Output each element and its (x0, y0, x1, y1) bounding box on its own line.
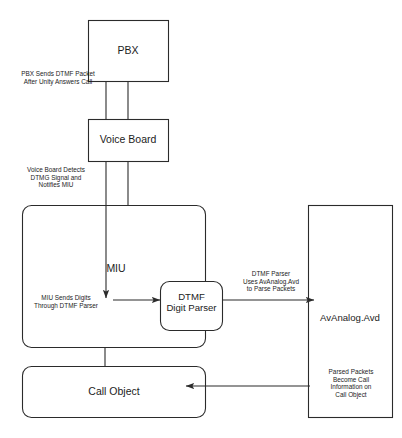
node-avanalog-shape[interactable] (309, 206, 393, 418)
node-voice-board-shape[interactable] (89, 120, 169, 162)
node-dtmf-parser-shape[interactable] (161, 282, 223, 331)
diagram-canvas: PBX Voice Board MIU DTMF Digit Parser Ca… (0, 0, 402, 438)
diagram-vector-layer (0, 0, 402, 438)
node-call-object-shape[interactable] (23, 367, 206, 418)
node-pbx-shape[interactable] (89, 21, 169, 82)
